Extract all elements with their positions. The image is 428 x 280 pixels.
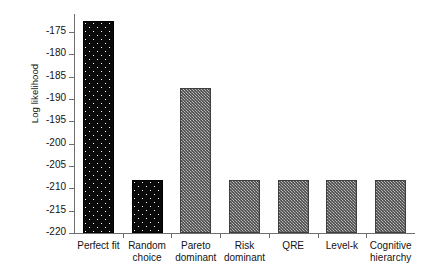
y-tick-label: -215: [26, 204, 66, 215]
x-category-label-line: QRE: [267, 240, 320, 252]
x-category-label-line: Pareto: [169, 240, 222, 252]
y-tick-label: -205: [26, 159, 66, 170]
bar-chart-figure: Log likelihood -175-180-185-190-195-200-…: [0, 0, 428, 280]
y-tick-label: -200: [26, 137, 66, 148]
x-axis-line: [74, 233, 415, 234]
y-tick: -210: [69, 188, 74, 189]
bar: [278, 180, 309, 233]
x-tick: [269, 233, 270, 238]
bar: [326, 180, 357, 233]
y-tick-label: -220: [26, 226, 66, 237]
y-tick: -205: [69, 166, 74, 167]
x-category-label: Level-k: [316, 240, 369, 252]
x-category-label: QRE: [267, 240, 320, 252]
plot-area: -175-180-185-190-195-200-205-210-215-220: [74, 14, 415, 233]
x-category-label-line: dominant: [169, 252, 222, 264]
bar: [132, 180, 163, 233]
x-category-label-line: choice: [121, 252, 174, 264]
x-tick: [171, 233, 172, 238]
x-tick: [366, 233, 367, 238]
x-category-label-line: Perfect fit: [72, 240, 125, 252]
x-category-label: Cognitivehierarchy: [364, 240, 417, 264]
y-tick: -190: [69, 99, 74, 100]
x-category-label-line: hierarchy: [364, 252, 417, 264]
x-category-label: Randomchoice: [121, 240, 174, 264]
y-tick: -195: [69, 121, 74, 122]
bar: [375, 180, 406, 233]
x-category-label-line: dominant: [218, 252, 271, 264]
y-tick: -175: [69, 32, 74, 33]
y-tick-label: -180: [26, 47, 66, 58]
x-tick: [123, 233, 124, 238]
x-tick: [220, 233, 221, 238]
x-category-label-line: Level-k: [316, 240, 369, 252]
y-tick: -200: [69, 144, 74, 145]
x-category-label: Perfect fit: [72, 240, 125, 252]
y-tick: -180: [69, 54, 74, 55]
bar: [83, 21, 114, 233]
y-tick: -215: [69, 211, 74, 212]
x-category-label: Riskdominant: [218, 240, 271, 264]
x-category-label-line: Risk: [218, 240, 271, 252]
y-tick-label: -195: [26, 114, 66, 125]
bar: [180, 88, 211, 233]
y-tick-label: -190: [26, 92, 66, 103]
bar: [229, 180, 260, 233]
y-tick-label: -185: [26, 70, 66, 81]
x-category-label-line: Cognitive: [364, 240, 417, 252]
y-tick-label: -175: [26, 25, 66, 36]
x-tick: [318, 233, 319, 238]
x-category-label: Paretodominant: [169, 240, 222, 264]
y-tick-label: -210: [26, 181, 66, 192]
y-axis-line: [74, 14, 75, 233]
x-category-label-line: Random: [121, 240, 174, 252]
y-tick: -185: [69, 77, 74, 78]
y-tick: -220: [69, 233, 74, 234]
